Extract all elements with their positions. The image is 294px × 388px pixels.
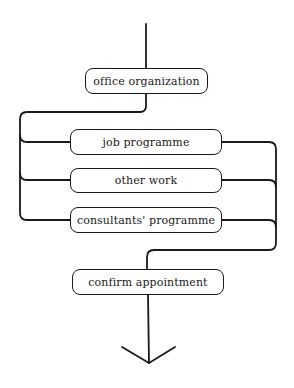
- node-office-organization: office organization: [85, 68, 208, 94]
- node-label: other work: [115, 174, 177, 187]
- edge-confirm-to-end: [148, 295, 149, 363]
- node-other-work: other work: [70, 168, 222, 193]
- node-label: job programme: [102, 136, 189, 149]
- node-label: confirm appointment: [88, 276, 207, 289]
- node-job-programme: job programme: [70, 129, 222, 155]
- flowchart: office organization job programme other …: [0, 0, 294, 388]
- node-label: consultants' programme: [77, 214, 215, 227]
- edge-other-to-merge: [222, 180, 276, 187]
- edge-job-to-merge: [147, 142, 276, 269]
- edge-consultants-to-merge: [222, 220, 276, 227]
- node-confirm-appointment: confirm appointment: [72, 269, 224, 295]
- connector-lines: [0, 0, 294, 388]
- edge-branch-to-job: [20, 135, 70, 142]
- node-consultants-programme: consultants' programme: [70, 207, 222, 233]
- edge-office-to-branch: [20, 94, 146, 220]
- node-label: office organization: [93, 75, 199, 88]
- edge-branch-to-other: [20, 173, 70, 180]
